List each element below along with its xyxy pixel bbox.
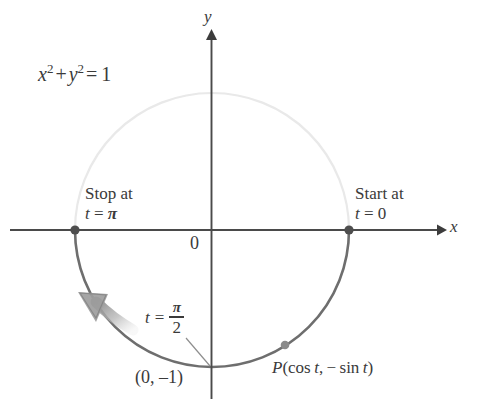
close-paren: ) — [368, 358, 374, 377]
start-annotation-text: Start at — [355, 184, 404, 203]
quarter-numerator: π — [171, 300, 183, 316]
equation-y: y — [69, 63, 78, 85]
start-annotation: Start at t = 0 — [355, 184, 404, 223]
stop-annotation-text: Stop at — [85, 184, 133, 203]
quarter-turn-annotation: t = π 2 — [145, 300, 184, 336]
stop-pi-symbol: π — [108, 204, 117, 223]
start-annotation-value: t = 0 — [355, 204, 404, 223]
quarter-label-leader-line — [186, 338, 210, 366]
unit-circle-figure: x2+y2=1 y x 0 Stop at t = π Start at t =… — [0, 0, 477, 399]
start-variable: t — [355, 204, 360, 223]
x-axis-arrowhead — [437, 225, 447, 236]
bottom-point-label: (0, –1) — [135, 367, 183, 387]
start-value: 0 — [378, 204, 387, 223]
stop-annotation-value: t = π — [85, 204, 133, 223]
direction-arrow — [78, 292, 133, 330]
stop-annotation: Stop at t = π — [85, 184, 133, 223]
quarter-fraction: π 2 — [169, 300, 184, 336]
figure-canvas — [0, 0, 477, 399]
minus-sign: − — [327, 358, 337, 377]
comma: , — [319, 358, 323, 377]
moving-point-label: P(cos t, − sin t) — [272, 358, 373, 377]
stop-equals: = — [94, 204, 104, 223]
equation-plus: + — [53, 63, 68, 85]
equation-equals: = — [84, 63, 99, 85]
circle-equation-label: x2+y2=1 — [38, 62, 113, 85]
start-equals: = — [364, 204, 374, 223]
quarter-equals: = — [155, 308, 165, 327]
point-stop-t-pi — [70, 225, 79, 234]
cos-function: cos — [288, 358, 311, 377]
point-name: P — [272, 358, 282, 377]
stop-variable: t — [85, 204, 90, 223]
quarter-variable: t — [145, 308, 150, 327]
y-axis-label: y — [204, 7, 212, 26]
y-axis-arrowhead — [206, 29, 217, 40]
equation-rhs: 1 — [99, 63, 113, 85]
point-start-t-0 — [344, 225, 353, 234]
sin-function: sin — [340, 358, 360, 377]
quarter-denominator: 2 — [171, 318, 184, 336]
x-axis-label: x — [450, 217, 458, 236]
point-p-moving — [281, 341, 290, 350]
origin-label: 0 — [190, 233, 199, 253]
equation-x: x — [38, 63, 47, 85]
